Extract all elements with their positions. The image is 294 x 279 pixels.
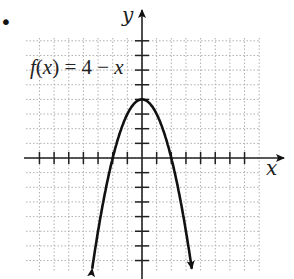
y-axis-label: y xyxy=(121,3,134,27)
parabola-chart: • f(x) = 4 − x x y xyxy=(0,0,294,279)
equation-label: f(x) = 4 − x xyxy=(30,55,124,79)
y-axis xyxy=(135,10,149,279)
bullet-marker: • xyxy=(0,10,12,34)
x-axis xyxy=(24,152,284,164)
x-axis-label: x xyxy=(266,156,277,180)
